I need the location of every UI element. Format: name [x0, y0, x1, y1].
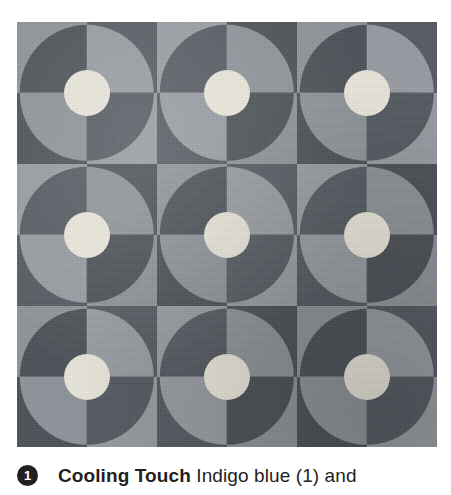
- quilt-block: [157, 306, 297, 447]
- block-center-dot: [64, 354, 110, 400]
- block-center-dot: [344, 354, 390, 400]
- block-center-dot: [344, 212, 390, 258]
- block-center-dot: [64, 212, 110, 258]
- quilt-block: [157, 22, 297, 164]
- quilt-block: [297, 22, 437, 164]
- block-center-dot: [204, 70, 250, 116]
- block-center-dot: [204, 354, 250, 400]
- caption-number-badge: 1: [17, 465, 38, 486]
- block-center-dot: [344, 70, 390, 116]
- block-center-dot: [204, 212, 250, 258]
- quilt-block: [297, 164, 437, 306]
- block-center-dot: [64, 70, 110, 116]
- quilt-block: [17, 306, 157, 447]
- caption-body: Indigo blue (1) and: [191, 465, 357, 486]
- quilt-block: [157, 164, 297, 306]
- quilt-photograph: [17, 22, 437, 447]
- caption-title: Cooling Touch: [58, 465, 191, 486]
- quilt-block: [297, 306, 437, 447]
- quilt-block: [17, 164, 157, 306]
- quilt-block: [17, 22, 157, 164]
- figure-caption: 1 Cooling Touch Indigo blue (1) and: [17, 463, 441, 488]
- quilt-block-grid: [17, 22, 437, 447]
- caption-text: Cooling Touch Indigo blue (1) and: [58, 463, 357, 488]
